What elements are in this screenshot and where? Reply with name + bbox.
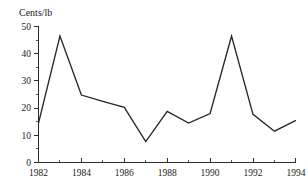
y-tick-label: 50 <box>22 22 32 32</box>
x-tick-label: 1984 <box>72 168 91 178</box>
y-axis-tick-labels: 0 10 20 30 40 50 <box>22 22 32 168</box>
y-tick-label: 20 <box>22 103 32 113</box>
x-tick-label: 1982 <box>29 168 48 178</box>
x-tick-label: 1992 <box>244 168 263 178</box>
y-tick-label: 10 <box>22 131 32 141</box>
x-tick-label: 1986 <box>115 168 134 178</box>
chart-figure: Cents/lb 0 10 20 30 40 50 <box>0 0 307 190</box>
data-series-line <box>39 36 296 142</box>
y-tick-label: 40 <box>22 49 32 59</box>
y-axis-title: Cents/lb <box>19 7 52 18</box>
x-tick-label: 1990 <box>201 168 220 178</box>
y-tick-label: 0 <box>26 158 31 168</box>
x-axis-major-ticks <box>39 158 296 163</box>
x-tick-label: 1988 <box>158 168 177 178</box>
line-chart-plot: Cents/lb 0 10 20 30 40 50 <box>0 0 307 190</box>
y-tick-label: 30 <box>22 76 32 86</box>
x-axis-tick-labels: 1982 1984 1986 1988 1990 1992 1994 <box>29 168 306 178</box>
x-tick-label: 1994 <box>286 168 305 178</box>
